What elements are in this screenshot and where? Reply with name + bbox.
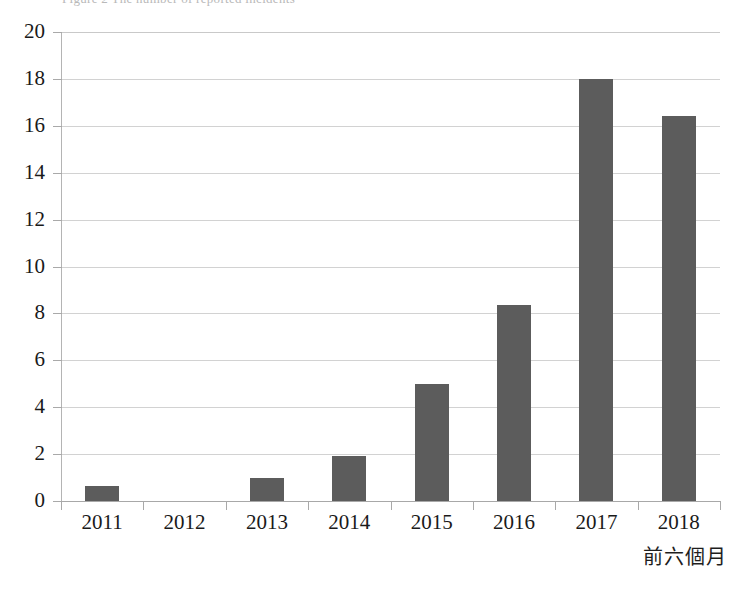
y-tick-2 <box>53 454 62 455</box>
y-tick-8 <box>53 313 62 314</box>
plot-area <box>61 32 720 501</box>
x-axis-label-2015: 2015 <box>391 512 473 533</box>
x-axis-label-2011: 2011 <box>61 512 143 533</box>
y-tick-12 <box>53 220 62 221</box>
x-tick-2012 <box>143 501 144 510</box>
x-axis-label-2016: 2016 <box>473 512 555 533</box>
y-axis-label: 6 <box>5 349 45 370</box>
y-axis-label: 0 <box>5 490 45 511</box>
y-axis-label: 8 <box>5 302 45 323</box>
y-axis-label: 4 <box>5 396 45 417</box>
bar-2017[interactable] <box>579 79 613 501</box>
x-tick-2016 <box>473 501 474 510</box>
bar-chart: 02468101214161820 2011201220132014201520… <box>0 0 749 598</box>
y-axis-label: 10 <box>5 256 45 277</box>
y-tick-4 <box>53 407 62 408</box>
x-axis-label-2014: 2014 <box>308 512 390 533</box>
gridline-8 <box>61 313 720 314</box>
y-axis-label: 18 <box>5 68 45 89</box>
y-axis-label: 16 <box>5 115 45 136</box>
gridline-2 <box>61 454 720 455</box>
y-tick-6 <box>53 360 62 361</box>
gridline-6 <box>61 360 720 361</box>
x-tick-2013 <box>226 501 227 510</box>
gridline-16 <box>61 126 720 127</box>
y-axis-label: 2 <box>5 443 45 464</box>
x-tick-2011 <box>61 501 62 510</box>
x-axis-label-2018: 2018 <box>638 512 720 533</box>
x-axis-label-2012: 2012 <box>144 512 226 533</box>
y-tick-16 <box>53 126 62 127</box>
footnote-label: 前六個月 <box>643 541 727 570</box>
x-tick-end <box>720 501 721 510</box>
gridline-10 <box>61 267 720 268</box>
bar-2015[interactable] <box>415 384 449 501</box>
y-axis-label: 14 <box>5 162 45 183</box>
gridline-14 <box>61 173 720 174</box>
bar-2016[interactable] <box>497 305 531 501</box>
gridline-18 <box>61 79 720 80</box>
y-tick-14 <box>53 173 62 174</box>
y-axis-label: 20 <box>5 21 45 42</box>
y-tick-10 <box>53 267 62 268</box>
x-tick-2018 <box>638 501 639 510</box>
y-tick-18 <box>53 79 62 80</box>
bar-2013[interactable] <box>250 478 284 501</box>
gridline-4 <box>61 407 720 408</box>
bar-2011[interactable] <box>85 486 119 501</box>
gridline-12 <box>61 220 720 221</box>
x-tick-2017 <box>555 501 556 510</box>
bar-2018[interactable] <box>662 116 696 501</box>
x-tick-2015 <box>391 501 392 510</box>
x-axis-label-2013: 2013 <box>226 512 308 533</box>
x-tick-2014 <box>308 501 309 510</box>
y-axis-label: 12 <box>5 209 45 230</box>
x-axis-label-2017: 2017 <box>555 512 637 533</box>
y-tick-20 <box>53 32 62 33</box>
bar-2014[interactable] <box>332 456 366 501</box>
gridline-20 <box>61 32 720 33</box>
